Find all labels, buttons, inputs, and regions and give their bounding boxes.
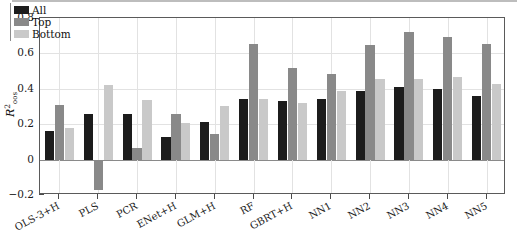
x-tick-mark <box>97 194 98 199</box>
x-tick-mark <box>486 194 487 199</box>
bar-enet-h-bottom <box>181 123 190 159</box>
bar-nn4-all <box>433 89 442 160</box>
bar-rf-top <box>249 44 258 160</box>
x-tick-label-gbrt-h: GBRT+H <box>248 200 294 232</box>
legend-label-top: Top <box>32 17 51 28</box>
bar-glm-h-bottom <box>220 106 229 160</box>
bar-pcr-bottom <box>142 100 151 159</box>
bar-pcr-top <box>132 148 141 160</box>
x-tick-label-glm-h: GLM+H <box>175 200 217 229</box>
bar-enet-h-all <box>161 137 170 159</box>
bar-nn5-bottom <box>492 84 501 159</box>
x-tick-label-nn1: NN1 <box>307 200 333 221</box>
x-tick-label-enet-h: ENet+H <box>135 200 178 230</box>
y-axis-label-subscript: oos <box>11 92 19 104</box>
x-tick-mark <box>136 194 137 199</box>
y-tick-label: 0.6 <box>0 47 34 57</box>
x-tick-label-pcr: PCR <box>115 200 140 220</box>
gridline-vertical <box>176 18 177 193</box>
bar-ols-3-h-bottom <box>65 128 74 160</box>
gridline-vertical <box>137 18 138 193</box>
x-tick-mark <box>253 194 254 199</box>
gridline-horizontal <box>40 53 504 54</box>
bar-ols-3-h-all <box>45 131 54 159</box>
bar-nn1-top <box>327 74 336 160</box>
x-tick-mark <box>58 194 59 199</box>
bar-pls-all <box>84 114 93 160</box>
bar-pls-top <box>94 160 103 190</box>
bar-enet-h-top <box>171 114 180 159</box>
bar-nn2-bottom <box>375 79 384 160</box>
x-tick-mark <box>214 194 215 199</box>
legend-swatch-bottom <box>14 30 29 38</box>
bar-gbrt-h-bottom <box>298 103 307 160</box>
bar-nn4-bottom <box>453 77 462 159</box>
zero-line <box>40 160 504 161</box>
x-tick-mark <box>291 194 292 199</box>
x-tick-label-pls: PLS <box>77 200 100 219</box>
x-tick-label-nn5: NN5 <box>462 200 488 221</box>
bar-nn3-top <box>404 32 413 159</box>
legend-label-bottom: Bottom <box>32 29 71 40</box>
x-tick-mark <box>408 194 409 199</box>
bar-glm-h-top <box>210 134 219 160</box>
bar-rf-all <box>239 99 248 160</box>
y-axis-label-superscript: 2 <box>3 104 12 109</box>
x-tick-mark <box>175 194 176 199</box>
chart-legend: AllTopBottom <box>10 3 71 41</box>
gridline-vertical <box>215 18 216 193</box>
bar-nn2-all <box>356 91 365 159</box>
x-tick-mark <box>369 194 370 199</box>
bar-chart-figure: −0.200.20.40.60.8 R2oos OLS-3+HPLSPCRENe… <box>0 0 517 236</box>
x-tick-label-nn4: NN4 <box>424 200 450 221</box>
bar-ols-3-h-top <box>55 105 64 160</box>
y-tick-label: 0 <box>0 154 34 164</box>
bar-gbrt-h-top <box>288 68 297 159</box>
bar-gbrt-h-all <box>278 101 287 159</box>
bar-nn1-all <box>317 99 326 160</box>
x-tick-label-nn2: NN2 <box>346 200 372 221</box>
bar-nn2-top <box>365 45 374 159</box>
scan-edge-artifact <box>12 0 517 2</box>
x-tick-mark <box>447 194 448 199</box>
y-axis-label: R2oos <box>3 77 20 131</box>
y-tick-label: −0.2 <box>0 189 34 199</box>
bar-nn3-all <box>394 87 403 160</box>
bar-nn4-top <box>443 37 452 160</box>
y-tick-mark <box>39 194 44 195</box>
x-tick-mark <box>330 194 331 199</box>
bar-rf-bottom <box>259 99 268 160</box>
bar-nn1-bottom <box>337 91 346 160</box>
bar-pcr-all <box>123 114 132 160</box>
legend-item-all: All <box>14 4 71 16</box>
bar-nn3-bottom <box>414 79 423 160</box>
x-tick-label-rf: RF <box>238 200 256 217</box>
legend-swatch-all <box>14 6 29 14</box>
plot-area <box>39 17 505 194</box>
legend-item-top: Top <box>14 16 71 28</box>
x-tick-label-nn3: NN3 <box>385 200 411 221</box>
bar-nn5-top <box>482 44 491 160</box>
bar-pls-bottom <box>104 85 113 159</box>
bar-nn5-all <box>472 96 481 160</box>
y-axis-label-base: R <box>4 109 17 117</box>
bar-glm-h-all <box>200 122 209 159</box>
legend-swatch-top <box>14 18 29 26</box>
x-tick-label-ols-3-h: OLS-3+H <box>13 200 61 233</box>
legend-item-bottom: Bottom <box>14 28 71 40</box>
legend-label-all: All <box>32 5 46 16</box>
